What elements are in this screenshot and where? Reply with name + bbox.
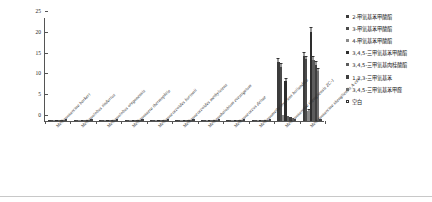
x-tick xyxy=(223,121,224,124)
y-tick-label: 15 xyxy=(36,50,46,56)
bar-slot xyxy=(116,17,118,121)
legend-label: 3,4,5-三甲氧基苯甲醛 xyxy=(352,86,402,93)
legend-label: 空白 xyxy=(352,98,362,105)
bar-slot xyxy=(269,17,271,121)
legend-swatch-icon xyxy=(346,39,349,42)
x-tick xyxy=(147,121,148,124)
bar-slot xyxy=(90,17,92,121)
legend-item[interactable]: 3,4,5-三甲氧基苯甲酸酯 xyxy=(346,47,432,59)
legend-item[interactable]: 3,4,5-三甲氧基苯甲醛 xyxy=(346,83,432,95)
figure: 甲氧基产物 (mmol/L) 0510152025 Methanosarcina… xyxy=(0,0,432,202)
x-tick xyxy=(325,121,326,124)
legend-swatch-icon xyxy=(346,15,349,18)
legend-label: 1,2,3-三甲氧基苯 xyxy=(352,74,392,81)
y-tick-label: 0 xyxy=(38,112,45,118)
x-tick xyxy=(121,121,122,124)
x-tick xyxy=(274,121,275,124)
y-tick-label: 10 xyxy=(36,70,46,76)
x-tick xyxy=(45,121,46,124)
x-tick xyxy=(198,121,199,124)
bar-slot xyxy=(218,17,220,121)
legend-item[interactable]: 空白 xyxy=(346,95,432,107)
legend-item[interactable]: 3,4,5-三甲氧基肉桂酸酯 xyxy=(346,59,432,71)
legend-item[interactable]: 1,2,3-三甲氧基苯 xyxy=(346,71,432,83)
legend-item[interactable]: 4-甲氧基苯甲酸酯 xyxy=(346,34,432,46)
legend-label: 3,4,5-三甲氧基肉桂酸酯 xyxy=(352,61,407,68)
x-tick xyxy=(96,121,97,124)
legend-swatch-icon xyxy=(346,100,349,103)
bar-slot xyxy=(167,17,169,121)
legend-swatch-icon xyxy=(346,63,349,66)
x-tick xyxy=(70,121,71,124)
legend-swatch-icon xyxy=(346,51,349,54)
bottom-divider xyxy=(0,196,432,197)
y-tick-label: 5 xyxy=(38,91,45,97)
legend-item[interactable]: 3-甲氧基苯甲酸酯 xyxy=(346,22,432,34)
legend-item[interactable]: 2-甲氧基苯甲酸酯 xyxy=(346,10,432,22)
legend-label: 3,4,5-三甲氧基苯甲酸酯 xyxy=(352,49,407,56)
bar-slot xyxy=(141,17,143,121)
bar-slot xyxy=(294,17,296,121)
y-tick-label: 25 xyxy=(36,8,46,14)
legend-swatch-icon xyxy=(346,27,349,30)
legend-swatch-icon xyxy=(346,75,349,78)
bar-group xyxy=(45,17,70,121)
y-tick-label: 20 xyxy=(36,29,46,35)
bar-slot xyxy=(243,17,245,121)
bar-slot xyxy=(192,17,194,121)
legend-swatch-icon xyxy=(346,88,349,91)
bar-slot xyxy=(65,17,67,121)
legend: 2-甲氧基苯甲酸酯3-甲氧基苯甲酸酯4-甲氧基苯甲酸酯3,4,5-三甲氧基苯甲酸… xyxy=(346,10,432,108)
legend-label: 2-甲氧基苯甲酸酯 xyxy=(352,13,392,20)
legend-label: 4-甲氧基苯甲酸酯 xyxy=(352,37,392,44)
legend-label: 3-甲氧基苯甲酸酯 xyxy=(352,25,392,32)
bar-slot xyxy=(319,17,321,121)
x-tick xyxy=(172,121,173,124)
x-tick xyxy=(300,121,301,124)
x-tick xyxy=(249,121,250,124)
